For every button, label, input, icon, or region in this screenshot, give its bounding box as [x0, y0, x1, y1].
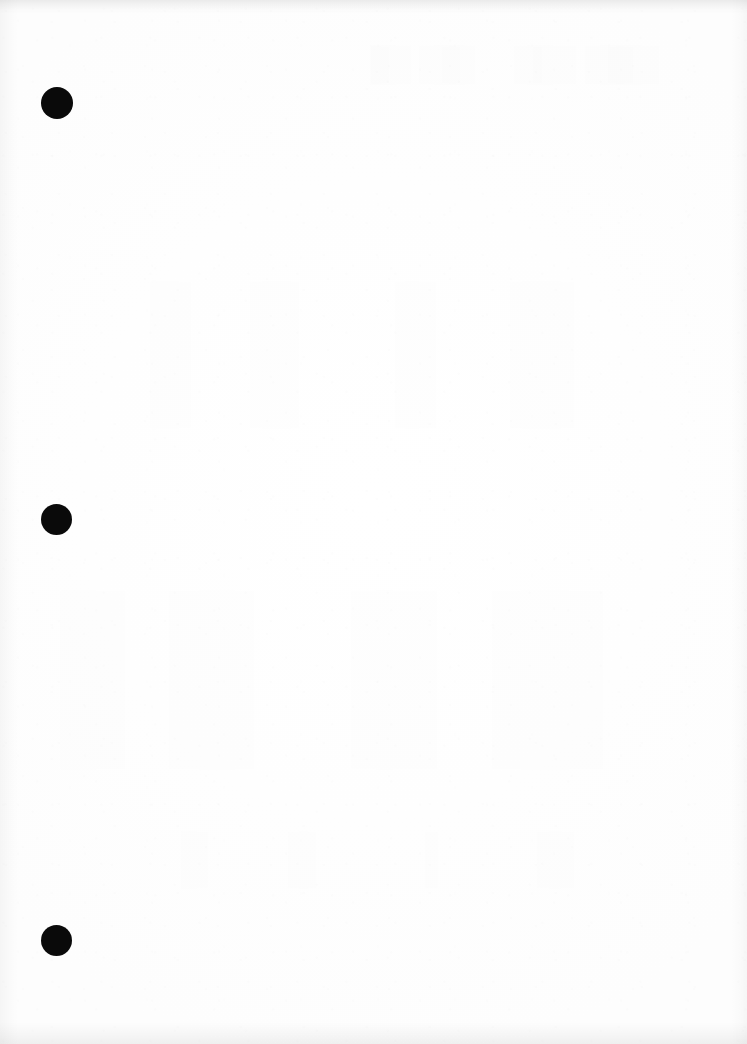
scan-edge-top — [0, 0, 747, 14]
paper-background — [0, 0, 747, 1044]
scan-edge-left — [0, 0, 18, 1044]
binding-dot-3 — [41, 925, 72, 956]
binding-dot-1 — [41, 87, 73, 119]
scanned-page — [0, 0, 747, 1044]
binding-dot-2 — [41, 504, 72, 535]
scan-edge-bottom — [0, 1022, 747, 1044]
scan-edge-right — [731, 0, 747, 1044]
